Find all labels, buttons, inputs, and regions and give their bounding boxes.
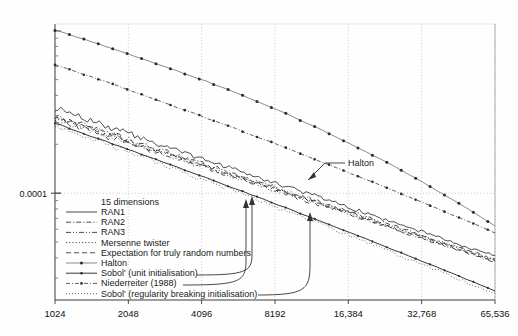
chart-legend: 15 dimensions RAN1RAN2RAN3Mersenne twist… [66, 197, 257, 299]
legend-item-label: Niederreiter (1988) [101, 278, 177, 288]
x-tick-label: 65,536 [480, 308, 509, 319]
x-tick-label: 1024 [44, 308, 65, 319]
chart-figure: 102420484096819216,38432,76865,536 0.000… [0, 0, 518, 336]
y-tick-label: 0.0001 [19, 189, 47, 199]
legend-item: Sobol' (regularity breaking initialisati… [66, 289, 257, 299]
legend-item-label: Expectation for truly random numbers [101, 248, 252, 258]
y-axis-minor-ticks [55, 31, 61, 278]
x-tick-label: 8192 [264, 308, 285, 319]
legend-item: Mersenne twister [66, 238, 170, 248]
x-tick-label: 32,768 [407, 308, 436, 319]
legend-swatch-marker [80, 262, 83, 265]
legend-item: Niederreiter (1988) [66, 278, 177, 288]
x-tick-label: 4096 [191, 308, 212, 319]
legend-swatch-marker [80, 282, 83, 285]
legend-item: Expectation for truly random numbers [66, 248, 252, 258]
annotation-halton: Halton [308, 158, 374, 180]
x-tick-label: 2048 [118, 308, 139, 319]
legend-item: Sobol' (unit initialisation) [66, 268, 198, 278]
legend-item-label: RAN1 [101, 207, 125, 217]
legend-item: RAN1 [66, 207, 125, 217]
chart-svg: 102420484096819216,38432,76865,536 0.000… [0, 0, 518, 336]
legend-item-label: Mersenne twister [101, 238, 170, 248]
x-axis-ticks: 102420484096819216,38432,76865,536 [44, 300, 509, 319]
legend-item-label: RAN3 [101, 227, 125, 237]
annotation-halton-label: Halton [348, 158, 374, 168]
legend-item: RAN3 [66, 227, 125, 237]
legend-title: 15 dimensions [101, 197, 160, 207]
legend-item-label: Halton [101, 258, 127, 268]
legend-item: RAN2 [66, 217, 125, 227]
legend-item-label: Sobol' (regularity breaking initialisati… [101, 289, 257, 299]
legend-swatch-marker [80, 272, 83, 275]
legend-item-label: RAN2 [101, 217, 125, 227]
legend-item-label: Sobol' (unit initialisation) [101, 268, 198, 278]
x-tick-label: 16,384 [334, 308, 363, 319]
legend-item: Halton [66, 258, 127, 268]
